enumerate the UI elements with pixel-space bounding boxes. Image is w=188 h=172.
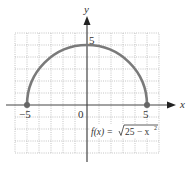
tick-label-5: 5: [143, 108, 149, 120]
x-axis-label: x: [179, 98, 185, 110]
function-exponent: 2: [154, 125, 157, 131]
function-label: f(x) = 25 − x 2: [90, 124, 158, 138]
tick-label-0: 0: [78, 108, 84, 120]
tick-label-neg5: −5: [19, 108, 31, 120]
function-prefix: f(x) =: [91, 127, 113, 138]
y-axis-arrow-icon: [84, 16, 91, 25]
tick-label-y5: 5: [89, 34, 95, 46]
semicircle-chart: x y −5 0 5 5 f(x) = 25 − x 2: [0, 0, 188, 172]
x-axis-arrow-icon: [167, 102, 176, 109]
function-radicand: 25 − x: [125, 127, 150, 137]
y-axis-label: y: [83, 3, 89, 15]
